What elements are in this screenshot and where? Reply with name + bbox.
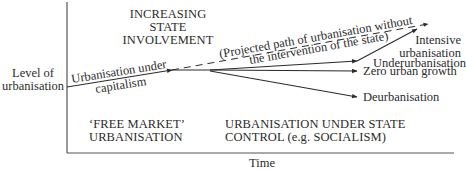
deurbanisation-path [210, 71, 357, 97]
free-market-line2: URBANISATION [89, 131, 185, 144]
y-axis-label: Level of urbanisation [2, 67, 64, 93]
y-axis-label-line2: urbanisation [2, 80, 64, 93]
top-label-line3: INVOLVEMENT [118, 34, 218, 47]
underurbanisation-path [210, 61, 357, 70]
increasing-state-involvement-label: INCREASING STATE INVOLVEMENT [118, 8, 218, 47]
zero-urban-growth-label: Zero urban growth [363, 65, 457, 78]
state-control-line2: CONTROL (e.g. SOCIALISM) [225, 131, 406, 144]
zero-growth-path [210, 70, 357, 71]
free-market-urbanisation-label: ‘FREE MARKET’ URBANISATION [89, 118, 185, 144]
deurbanisation-label: Deurbanisation [363, 91, 439, 104]
state-control-urbanisation-label: URBANISATION UNDER STATE CONTROL (e.g. S… [225, 118, 406, 144]
x-axis-label: Time [249, 157, 275, 170]
